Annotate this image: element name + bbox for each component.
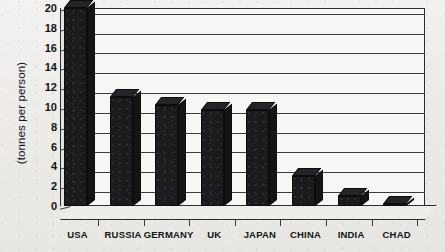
x-label-china: CHINA <box>290 229 321 240</box>
x-tick-mark-china <box>326 220 327 226</box>
bar-usa <box>64 8 87 206</box>
bar-chad <box>383 204 406 206</box>
y-tick-label-12: 12 <box>45 82 57 93</box>
y-tick-label-2: 2 <box>51 181 57 192</box>
x-axis-tick-marks <box>60 220 425 228</box>
bar-front-face <box>338 196 361 206</box>
chart-page: (tonnes per person) 02468101214161820 US… <box>0 0 445 252</box>
bar-front-face <box>292 176 315 206</box>
bar-side-face <box>224 104 232 206</box>
y-tick-label-0: 0 <box>51 201 57 212</box>
y-tick-label-6: 6 <box>51 141 57 152</box>
x-tick-mark-uk <box>235 220 236 226</box>
y-axis-title-text: (tonnes per person) <box>15 61 27 163</box>
y-tick-label-18: 18 <box>45 22 57 33</box>
bar-front-face <box>383 204 406 206</box>
x-label-chad: CHAD <box>383 229 411 240</box>
y-tick-label-4: 4 <box>51 161 57 172</box>
y-tick-label-16: 16 <box>45 42 57 53</box>
bar-germany <box>155 105 178 206</box>
bar-side-face <box>133 91 141 206</box>
x-tick-mark-chad <box>417 220 418 226</box>
x-label-russia: RUSSIA <box>105 229 142 240</box>
x-tick-mark-usa <box>98 220 99 226</box>
x-axis-category-labels: USARUSSIAGERMANYUKJAPANCHINAINDIACHAD <box>60 229 435 249</box>
plot-area <box>60 8 425 220</box>
bar-russia <box>110 97 133 206</box>
x-label-uk: UK <box>207 229 221 240</box>
y-tick-label-10: 10 <box>45 102 57 113</box>
bar-front-face <box>155 105 178 206</box>
x-label-usa: USA <box>67 229 88 240</box>
y-tick-label-14: 14 <box>45 62 57 73</box>
y-tick-label-8: 8 <box>51 121 57 132</box>
bar-uk <box>201 110 224 206</box>
bar-side-face <box>269 104 277 206</box>
x-label-germany: GERMANY <box>144 229 194 240</box>
x-tick-mark-russia <box>144 220 145 226</box>
y-axis-tick-labels: 02468101214161820 <box>33 0 57 252</box>
x-tick-mark-japan <box>280 220 281 226</box>
bar-india <box>338 196 361 206</box>
bar-side-face <box>87 2 95 206</box>
bar-front-face <box>110 97 133 206</box>
bar-china <box>292 176 315 206</box>
bar-front-face <box>201 110 224 206</box>
x-label-japan: JAPAN <box>244 229 277 240</box>
y-tick-label-20: 20 <box>45 3 57 14</box>
bar-series <box>60 8 425 220</box>
x-label-india: INDIA <box>338 229 365 240</box>
bar-front-face <box>64 8 87 206</box>
bar-side-face <box>178 99 186 206</box>
y-axis-title: (tonnes per person) <box>6 0 36 225</box>
bar-side-face <box>315 170 323 206</box>
bar-japan <box>246 110 269 206</box>
x-tick-mark-india <box>372 220 373 226</box>
bar-front-face <box>246 110 269 206</box>
x-tick-mark-germany <box>189 220 190 226</box>
